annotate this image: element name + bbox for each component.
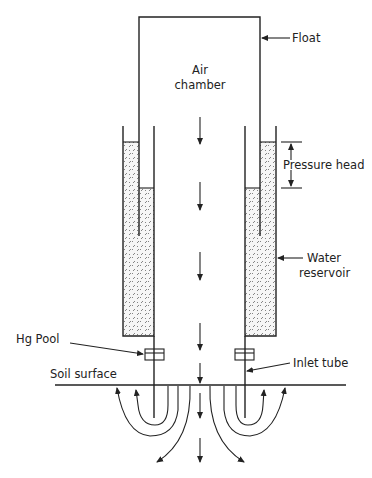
label-water-reservoir-2: reservoir (299, 266, 350, 280)
label-hg-pool: Hg Pool (16, 332, 59, 346)
label-inlet-tube: Inlet tube (293, 356, 348, 370)
left-inlet-tube (145, 336, 164, 418)
infiltrometer-diagram: Float Air chamber Pressure head Water re… (0, 0, 372, 478)
label-float: Float (292, 31, 321, 45)
label-air-chamber-2: chamber (175, 78, 226, 92)
label-water-reservoir-1: Water (307, 251, 341, 265)
right-inlet-tube (235, 336, 254, 418)
label-air-chamber-1: Air (192, 63, 208, 77)
inlet-tube-leader-arrow (247, 363, 290, 371)
label-soil-surface: Soil surface (50, 367, 117, 381)
right-flow-lines (210, 386, 285, 462)
label-pressure-head: Pressure head (283, 158, 364, 172)
hg-pool-leader-arrow (70, 343, 143, 354)
